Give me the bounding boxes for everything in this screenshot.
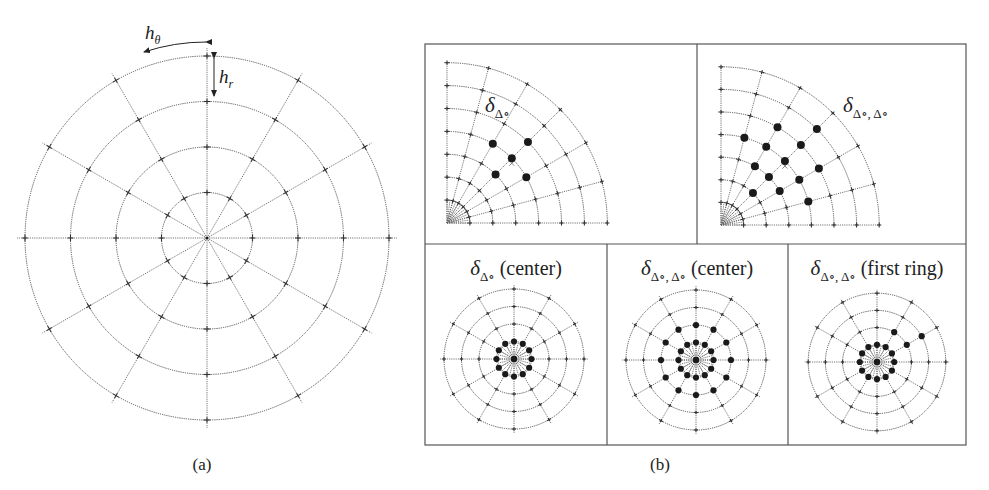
stencil-point: [492, 170, 500, 178]
grid-node-tick: [859, 331, 861, 334]
stencil-point: [874, 342, 880, 348]
stencil-point: [723, 339, 729, 345]
grid-spoke: [877, 362, 940, 398]
stencil-point: [663, 339, 669, 345]
grid-spoke: [207, 238, 302, 403]
grid-node-tick: [741, 219, 745, 220]
grid-node-tick: [489, 211, 493, 212]
grid-node-tick: [763, 213, 767, 214]
stencil-point: [865, 374, 871, 380]
grid-spoke: [877, 362, 913, 425]
subpanel-label: δΔ∘, Δ∘: [843, 93, 888, 121]
stencil-point: [702, 372, 708, 378]
stencil-point: [496, 365, 502, 371]
grid-node-tick: [600, 181, 604, 182]
grid-node-tick: [872, 184, 876, 185]
grid-node-tick: [487, 403, 489, 406]
grid-node-tick: [846, 344, 849, 346]
subpanel-label: δΔ∘ (center): [470, 256, 562, 284]
stencil-point: [693, 392, 699, 398]
stencil-point: [804, 198, 812, 206]
grid-spoke: [814, 326, 877, 362]
grid-node-tick: [726, 201, 727, 205]
grid-node-tick: [496, 388, 498, 391]
grid-node-tick: [482, 341, 485, 343]
stencil-point: [751, 162, 759, 170]
grid-node-tick: [649, 385, 652, 387]
stencil-point: [702, 342, 708, 348]
grid-node-tick: [669, 313, 671, 316]
grid-node-tick: [816, 396, 819, 398]
panel-b-caption: (b): [650, 455, 670, 474]
stencil-point: [815, 165, 823, 173]
grid-node-tick: [816, 327, 819, 329]
grid-node-tick: [548, 297, 550, 300]
grid-node-tick: [660, 298, 662, 301]
grid-node-tick: [850, 189, 854, 190]
subpanel-full-double-center: δΔ∘, Δ∘ (center): [622, 256, 770, 434]
stencil-point: [865, 344, 871, 350]
grid-node-tick: [539, 312, 541, 315]
grid-node-tick: [902, 405, 904, 408]
grid-node-tick: [476, 110, 477, 114]
stencil-point: [658, 357, 664, 363]
grid-spoke: [841, 299, 877, 362]
stencil-point: [489, 140, 497, 148]
grid-node-tick: [452, 393, 455, 395]
stencil-point: [511, 373, 517, 379]
panel-b-subpanels: δΔ∘δΔ∘, Δ∘δΔ∘ (center)δΔ∘, Δ∘ (center)δΔ…: [440, 61, 950, 435]
stencil-point: [520, 371, 526, 377]
grid-node-tick: [842, 420, 844, 423]
stencil-point: [904, 342, 910, 348]
stencil-point: [859, 350, 865, 356]
grid-node-tick: [721, 313, 723, 316]
grid-node-tick: [905, 378, 908, 380]
grid-node-tick: [548, 418, 550, 421]
stencil-point: [524, 138, 532, 146]
stencil-point: [693, 322, 699, 328]
stencil-point: [508, 154, 516, 162]
stencil-point: [919, 333, 925, 339]
stencil-point: [678, 348, 684, 354]
stencil-point: [511, 356, 517, 362]
panel-b-frame: [425, 44, 966, 445]
grid-node-tick: [846, 378, 849, 380]
grid-node-tick: [935, 396, 938, 398]
grid-node-tick: [539, 403, 541, 406]
grid-node-tick: [531, 327, 533, 330]
grid-node-tick: [634, 324, 637, 326]
stencil-point: [889, 350, 895, 356]
subpanel-label: δΔ∘, Δ∘ (center): [641, 256, 753, 284]
stencil-point: [520, 341, 526, 347]
stencil-point: [710, 387, 716, 393]
grid-node-tick: [558, 332, 561, 334]
stencil-point: [740, 134, 748, 142]
grid-node-tick: [828, 195, 832, 196]
stencil-point: [678, 366, 684, 372]
stencil-point: [708, 366, 714, 372]
grid-node-tick: [533, 199, 537, 200]
stencil-point: [493, 356, 499, 362]
grid-node-tick: [573, 323, 576, 325]
grid-node-tick: [452, 323, 455, 325]
grid-node-tick: [859, 390, 861, 393]
subpanel-label: δΔ∘: [485, 93, 510, 121]
grid-node-tick: [732, 179, 733, 183]
stencil-point: [883, 344, 889, 350]
stencil-point: [526, 347, 532, 353]
stencil-point: [813, 125, 821, 133]
stencil-point: [874, 376, 880, 382]
grid-node-tick: [755, 324, 758, 326]
grid-node-tick: [911, 301, 913, 304]
grid-node-tick: [730, 419, 732, 422]
grid-node-tick: [660, 419, 662, 422]
grid-node-tick: [482, 88, 483, 92]
grid-node-tick: [850, 405, 852, 408]
stencil-point: [522, 173, 530, 181]
grid-node-tick: [756, 92, 757, 96]
grid-spoke: [42, 238, 207, 333]
stencil-point: [496, 347, 502, 353]
grid-node-tick: [478, 418, 480, 421]
grid-node-tick: [911, 420, 913, 423]
grid-node-tick: [543, 376, 546, 378]
